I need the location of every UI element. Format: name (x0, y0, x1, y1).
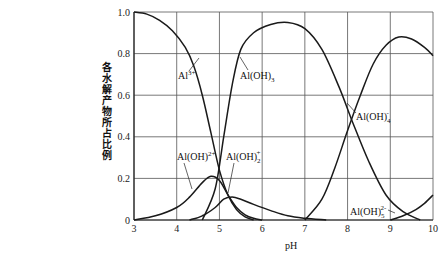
x-tick-label: 6 (260, 223, 265, 234)
speciation-chart: 34567891000.20.40.60.81.0 Al3+Al(OH)3Al(… (0, 0, 443, 256)
y-axis-label: 各水解产物所占比例 (101, 62, 113, 161)
y-tick-label: 0.8 (118, 48, 131, 59)
y-tick-label: 0.4 (118, 131, 131, 142)
x-tick-label: 7 (302, 223, 307, 234)
label-aloh5: Al(OH)52- (350, 204, 387, 220)
x-tick-label: 10 (428, 223, 438, 234)
y-tick-label: 0.6 (118, 90, 131, 101)
x-tick-label: 3 (132, 223, 137, 234)
label-al3: Al3+ (178, 69, 196, 81)
y-tick-label: 0 (125, 215, 130, 226)
label-aloh2: Al(OH)2+ (226, 149, 261, 165)
curve-al-oh-2- (134, 176, 262, 220)
x-tick-label: 4 (174, 223, 179, 234)
label-aloh3: Al(OH)3 (240, 70, 275, 84)
label-aloh4: Al(OH)4- (356, 109, 391, 125)
curve-labels: Al3+Al(OH)3Al(OH)4-Al(OH)2+Al(OH)2+Al(OH… (177, 57, 395, 220)
label-aloh2plus: Al(OH)2+ (177, 150, 216, 163)
y-tick-label: 1.0 (118, 7, 131, 18)
curve-al-oh-2-dihydroxo- (190, 197, 327, 220)
x-tick-label: 9 (388, 223, 393, 234)
curve-al3- (134, 12, 254, 220)
curve-al-oh-4- (305, 37, 433, 220)
y-tick-label: 0.2 (118, 173, 131, 184)
x-tick-label: 8 (345, 223, 350, 234)
x-axis-label: pH (285, 240, 297, 251)
x-tick-label: 5 (217, 223, 222, 234)
